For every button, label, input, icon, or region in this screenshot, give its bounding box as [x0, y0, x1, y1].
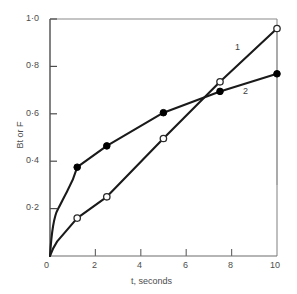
y-axis-ticks — [50, 19, 57, 209]
x-tick-label-10: 10 — [270, 260, 280, 270]
series-2-markers — [74, 71, 280, 171]
y-tick-label-0-2: 0·2 — [26, 202, 39, 212]
x-tick-label-8: 8 — [228, 260, 233, 270]
series-2-line — [50, 74, 277, 256]
y-tick-label-0-4: 0·4 — [26, 155, 39, 165]
x-axis-title: t, seconds — [131, 276, 172, 286]
x-tick-label-4: 4 — [137, 260, 142, 270]
curve-label-2: 2 — [243, 86, 248, 96]
plot-canvas — [0, 0, 297, 294]
y-tick-label-0-8: 0·8 — [26, 60, 39, 70]
x-tick-label-2: 2 — [92, 260, 97, 270]
chart-figure: 1·0 0·8 0·6 0·4 0·2 0 2 4 6 8 10 Bt or F… — [0, 0, 297, 294]
x-tick-label-6: 6 — [183, 260, 188, 270]
y-axis-title: Bt or F — [15, 107, 25, 163]
y-tick-label-1-0: 1·0 — [26, 13, 39, 23]
y-tick-label-0-6: 0·6 — [26, 108, 39, 118]
x-axis-ticks — [95, 249, 231, 256]
x-tick-label-0: 0 — [44, 260, 49, 270]
curve-label-1: 1 — [235, 42, 240, 52]
